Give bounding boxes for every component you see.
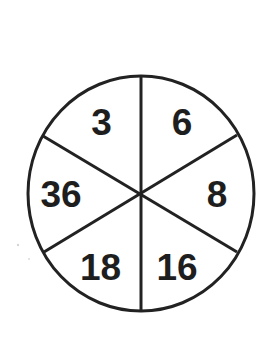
scan-speck [28, 258, 30, 260]
segment-left-value: 36 [40, 174, 81, 215]
number-wheel-diagram: 3 6 8 16 18 36 [0, 0, 273, 338]
segment-top-right-value: 6 [172, 102, 193, 143]
segment-bottom-left-value: 18 [80, 247, 121, 288]
segment-top-left-value: 3 [91, 102, 112, 143]
segment-bottom-right-value: 16 [156, 247, 197, 288]
segment-right-value: 8 [207, 174, 228, 215]
scan-speck [17, 244, 19, 246]
